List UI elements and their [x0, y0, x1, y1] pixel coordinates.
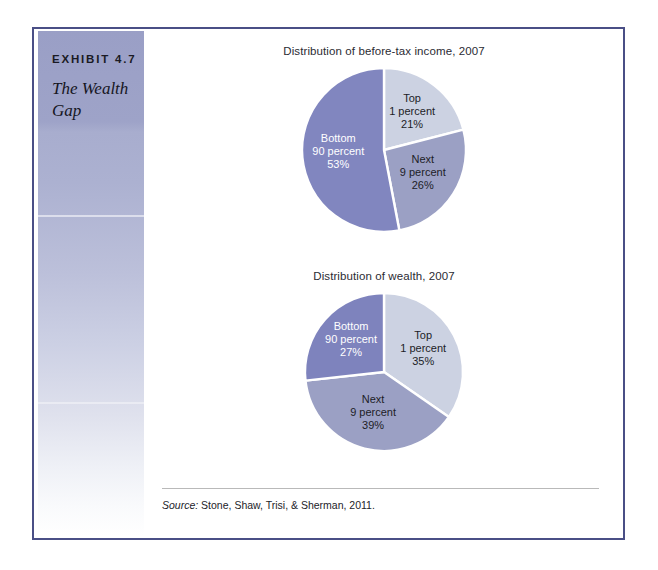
pie-slice-label-line: 90 percent [325, 333, 377, 345]
pie-chart-wealth: Top1 percent35%Next9 percent39%Bottom90 … [145, 290, 623, 462]
chart-title-wealth: Distribution of wealth, 2007 [145, 270, 623, 282]
pie-slice-label-line: 9 percent [400, 166, 446, 178]
exhibit-content-area: Distribution of before-tax income, 2007 … [145, 29, 623, 538]
pie-slice-label-line: Bottom [334, 320, 369, 332]
sidebar-seam-line [38, 215, 144, 217]
pie-slice-label-line: Top [414, 329, 432, 341]
pie-slice-label-line: 26% [412, 179, 434, 191]
pie-slice-label-line: 1 percent [389, 105, 435, 117]
exhibit-number-label: EXHIBIT 4.7 [52, 53, 136, 65]
exhibit-title: The Wealth Gap [52, 78, 140, 122]
pie-slice-label-line: Bottom [321, 132, 356, 144]
pie-slice-label-line: 1 percent [400, 342, 446, 354]
pie-slice-label-line: 9 percent [350, 406, 396, 418]
pie-slice-label-line: Next [411, 153, 434, 165]
pie-slice-label-line: 39% [362, 419, 384, 431]
pie-chart-2-svg: Top1 percent35%Next9 percent39%Bottom90 … [294, 290, 474, 462]
exhibit-frame: EXHIBIT 4.7 The Wealth Gap Distribution … [32, 27, 625, 540]
chart-title-before-tax-income: Distribution of before-tax income, 2007 [145, 45, 623, 57]
pie-slice-label-line: 21% [401, 118, 423, 130]
pie-slice-label-line: Top [403, 92, 421, 104]
pie-chart-before-tax-income: Top1 percent21%Next9 percent26%Bottom90 … [145, 65, 623, 237]
pie-slice-label-line: 90 percent [312, 145, 364, 157]
exhibit-sidebar-panel: EXHIBIT 4.7 The Wealth Gap [38, 31, 144, 536]
source-citation-text: Stone, Shaw, Trisi, & Sherman, 2011. [198, 499, 375, 511]
chart-block-before-tax-income: Distribution of before-tax income, 2007 … [145, 45, 623, 237]
pie-slice-label-line: 53% [327, 158, 349, 170]
sidebar-seam-line [38, 402, 144, 404]
chart-block-wealth: Distribution of wealth, 2007 Top1 percen… [145, 270, 623, 462]
pie-chart-1-svg: Top1 percent21%Next9 percent26%Bottom90 … [294, 65, 474, 237]
source-divider-rule [162, 488, 599, 489]
pie-slice-label-line: 27% [340, 346, 362, 358]
pie-slice-label-line: 35% [412, 355, 434, 367]
source-lead-label: Source: [162, 499, 198, 511]
pie-slice-label-line: Next [362, 393, 385, 405]
source-citation: Source: Stone, Shaw, Trisi, & Sherman, 2… [162, 499, 375, 511]
